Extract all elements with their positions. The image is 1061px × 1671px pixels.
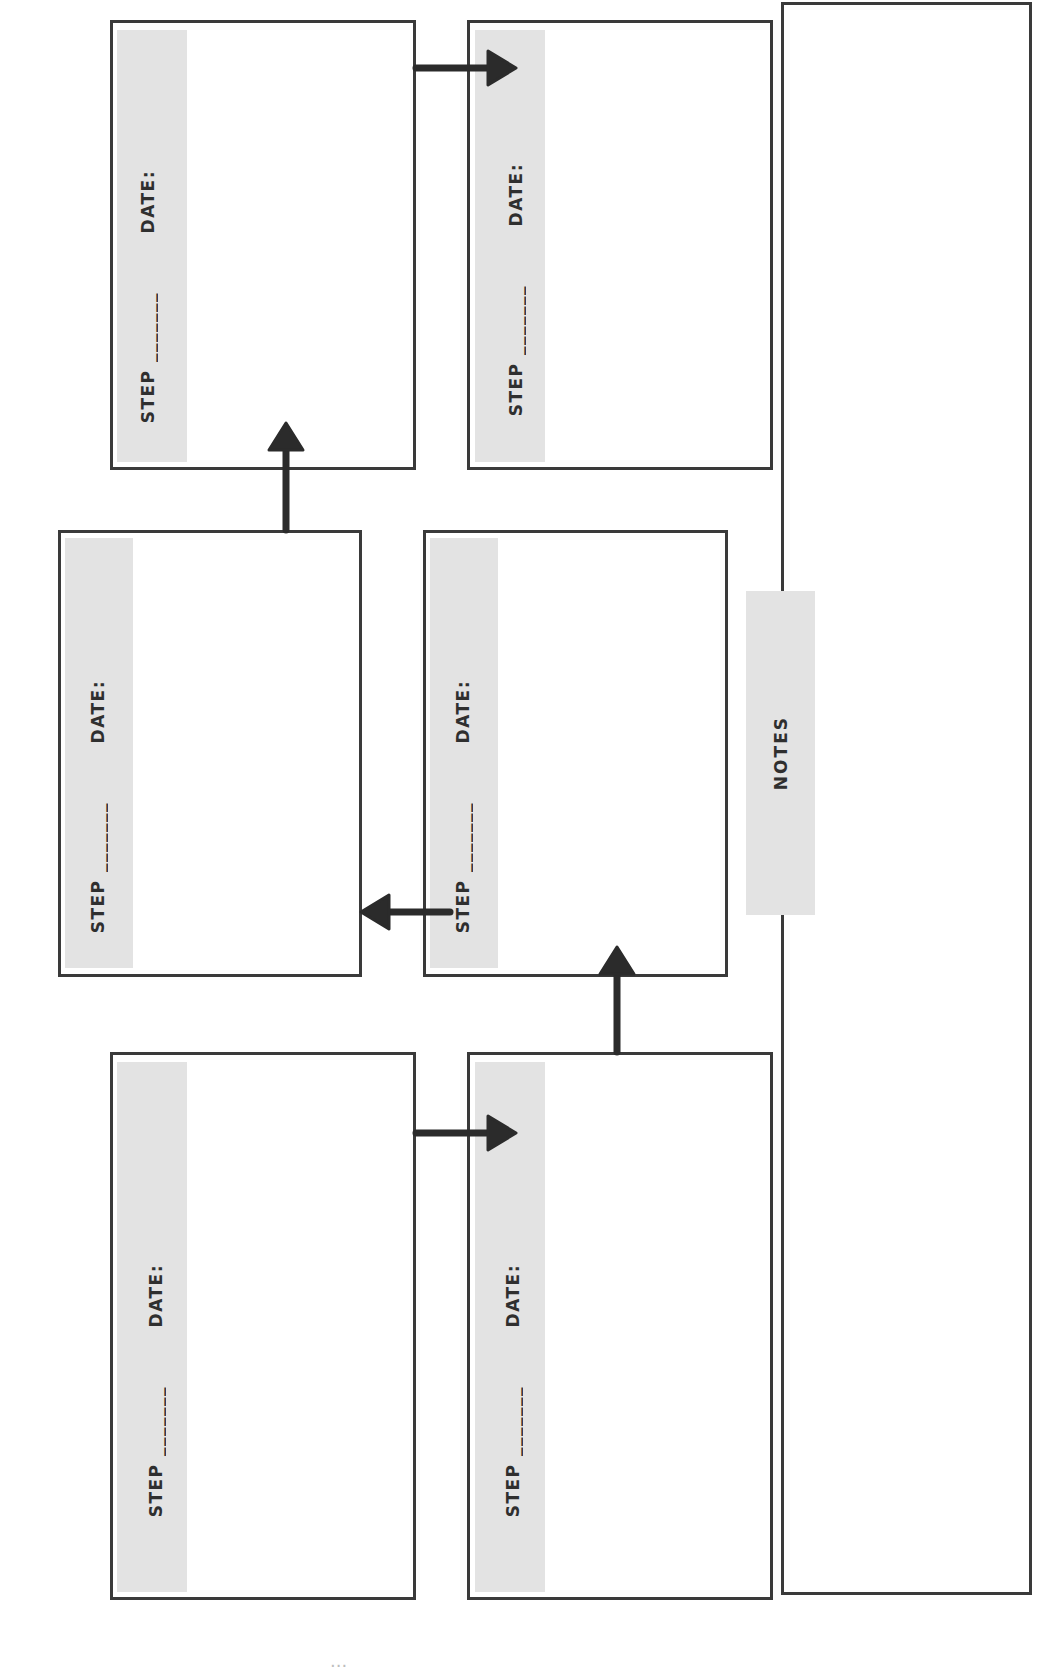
step-box-a-step-label: STEP _______ — [138, 292, 158, 423]
step-box-b-date-label: DATE: — [506, 163, 526, 226]
step-box-f-date-label: DATE: — [503, 1264, 523, 1327]
step-box-e-step-label: STEP _______ — [146, 1386, 166, 1517]
notes-box[interactable] — [781, 2, 1032, 1595]
step-box-d-date-label: DATE: — [453, 680, 473, 743]
step-box-c-date-label: DATE: — [88, 680, 108, 743]
step-box-b-step-label: STEP _______ — [506, 285, 526, 416]
step-box-e-date-label: DATE: — [146, 1264, 166, 1327]
page-number: ... — [330, 1652, 347, 1670]
step-box-f-step-label: STEP _______ — [503, 1386, 523, 1517]
step-box-a-date-label: DATE: — [138, 170, 158, 233]
step-box-d-step-label: STEP _______ — [453, 802, 473, 933]
notes-label: NOTES — [771, 716, 791, 790]
step-box-c-step-label: STEP _______ — [88, 802, 108, 933]
